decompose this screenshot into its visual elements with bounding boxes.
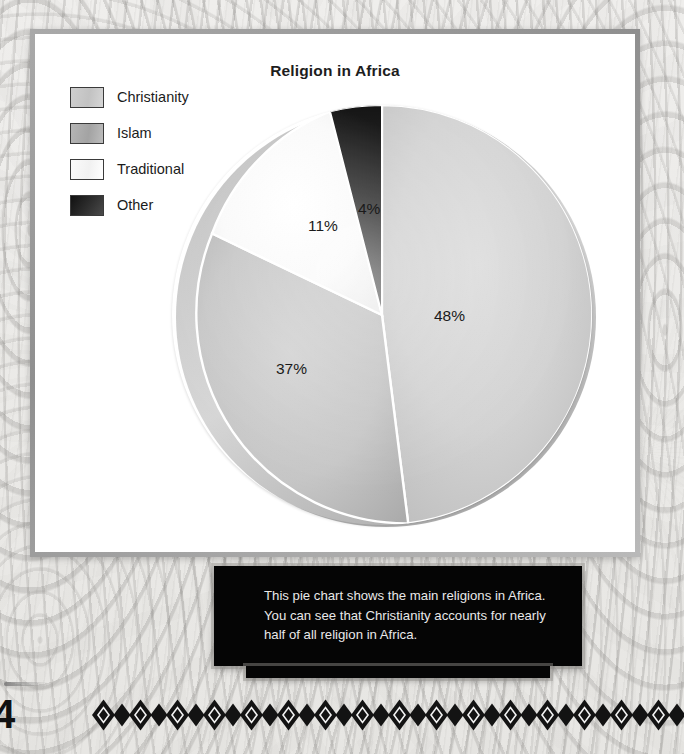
chart-card: Religion in Africa Christianity Islam Tr… — [30, 29, 640, 557]
chart-title: Religion in Africa — [35, 62, 635, 80]
legend-item-islam[interactable]: Islam — [70, 115, 189, 151]
pie-slices-svg — [172, 105, 592, 525]
pie-data-label-traditional: 11% — [308, 217, 338, 235]
legend-swatch-islam — [70, 123, 104, 144]
pie-chart: 48% 37% 11% 4% — [172, 105, 596, 529]
legend-item-other[interactable]: Other — [70, 187, 189, 223]
caption-box-foot — [246, 666, 550, 678]
chart-legend: Christianity Islam Traditional Other — [70, 79, 189, 223]
pie-disc — [172, 105, 592, 525]
caption-box: This pie chart shows the main religions … — [214, 566, 582, 666]
legend-swatch-christianity — [70, 87, 104, 108]
page-root: Religion in Africa Christianity Islam Tr… — [0, 0, 684, 754]
pie-slice-christianity[interactable] — [382, 105, 592, 523]
legend-label-islam: Islam — [117, 125, 152, 141]
legend-label-other: Other — [117, 197, 153, 213]
diamond-border-decoration — [88, 694, 684, 736]
legend-swatch-other — [70, 195, 104, 216]
diamond-pattern-svg — [88, 694, 684, 736]
legend-item-traditional[interactable]: Traditional — [70, 151, 189, 187]
legend-swatch-traditional — [70, 159, 104, 180]
pie-data-label-christianity: 48% — [434, 307, 465, 325]
page-number: 4 — [0, 692, 14, 737]
caption-text: This pie chart shows the main religions … — [264, 586, 568, 645]
pie-data-label-islam: 37% — [276, 360, 307, 378]
legend-item-christianity[interactable]: Christianity — [70, 79, 189, 115]
legend-label-christianity: Christianity — [117, 89, 189, 105]
page-number-smudge — [4, 682, 48, 686]
pie-data-label-other: 4% — [358, 200, 380, 218]
